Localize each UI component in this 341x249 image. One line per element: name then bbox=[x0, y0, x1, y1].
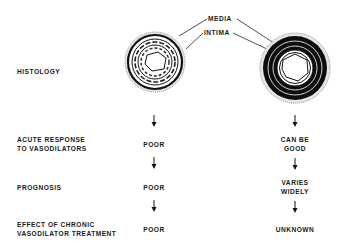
right-vessel-icon bbox=[260, 33, 330, 103]
media-label: MEDIA bbox=[208, 15, 232, 24]
row-label-prognosis: PROGNOSIS bbox=[17, 184, 61, 193]
value-line: GOOD bbox=[281, 145, 309, 154]
value-line: WIDELY bbox=[281, 188, 309, 197]
row-label-acute-response: ACUTE RESPONSE TO VASODILATORS bbox=[17, 136, 87, 153]
arrow-down-icon bbox=[291, 115, 299, 127]
right-prognosis-value: VARIES WIDELY bbox=[281, 179, 309, 196]
row-label-chronic-effect: EFFECT OF CHRONIC VASODILATOR TREATMENT bbox=[17, 221, 116, 238]
intima-label: INTIMA bbox=[204, 29, 230, 38]
left-prognosis-value: POOR bbox=[143, 184, 164, 193]
arrow-down-icon bbox=[150, 157, 158, 169]
arrow-down-icon bbox=[150, 200, 158, 212]
left-chronic-value: POOR bbox=[143, 226, 164, 235]
label-line: EFFECT OF CHRONIC bbox=[17, 221, 116, 230]
arrow-down-icon bbox=[291, 158, 299, 170]
right-chronic-value: UNKNOWN bbox=[276, 226, 315, 235]
left-vessel-icon bbox=[125, 32, 185, 92]
label-line: ACUTE RESPONSE bbox=[17, 136, 87, 145]
label-line: TO VASODILATORS bbox=[17, 145, 87, 154]
value-line: VARIES bbox=[281, 179, 309, 188]
arrow-down-icon bbox=[291, 201, 299, 213]
value-line: CAN BE bbox=[281, 136, 309, 145]
left-acute-value: POOR bbox=[143, 141, 164, 150]
arrow-down-icon bbox=[150, 115, 158, 127]
row-label-histology: HISTOLOGY bbox=[17, 68, 60, 77]
label-line: VASODILATOR TREATMENT bbox=[17, 230, 116, 239]
right-acute-value: CAN BE GOOD bbox=[281, 136, 309, 153]
vessel-illustrations bbox=[0, 0, 341, 249]
